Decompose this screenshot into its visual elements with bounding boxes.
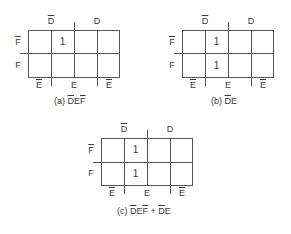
cell-r1-c1: 1 xyxy=(124,169,147,179)
col-divider-2 xyxy=(228,22,229,78)
term: E xyxy=(231,96,237,106)
row-divider xyxy=(93,162,193,163)
caption-prefix: (b) xyxy=(211,96,225,106)
label-e-bar-right: E xyxy=(257,80,269,90)
col-divider-3 xyxy=(251,30,252,86)
label-e-bar-left: E xyxy=(106,188,118,198)
label-d: D xyxy=(164,124,176,134)
label-d-bar: D xyxy=(118,124,130,134)
label-f: F xyxy=(166,60,178,70)
col-divider-3 xyxy=(97,30,98,86)
col-divider-3 xyxy=(170,138,171,194)
cell-r0-c1: 1 xyxy=(51,37,74,47)
label-e-bar-left: E xyxy=(187,80,199,90)
plus-operator: + xyxy=(148,206,158,216)
label-e-bar-left: E xyxy=(33,80,45,90)
label-f: F xyxy=(85,168,97,178)
label-e: E xyxy=(141,188,153,198)
caption-prefix: (a) xyxy=(54,96,68,106)
label-e-bar-right: E xyxy=(103,80,115,90)
label-f-bar: F xyxy=(85,145,97,155)
col-divider-2 xyxy=(74,22,75,78)
row-divider xyxy=(174,53,274,54)
caption-c: (c) DEF + DE xyxy=(117,206,171,216)
caption-a: (a) DEF xyxy=(54,96,86,106)
label-d-bar: D xyxy=(45,16,57,26)
kmap-grid-b: 1 1 D D F F E E E xyxy=(182,30,274,78)
kmap-grid-c: 1 1 D D F F E E E xyxy=(101,138,193,186)
col-divider-2 xyxy=(147,130,148,186)
caption-b: (b) DE xyxy=(211,96,237,106)
term: E xyxy=(165,206,171,216)
label-f: F xyxy=(12,60,24,70)
label-e-bar-right: E xyxy=(176,188,188,198)
label-f-bar: F xyxy=(166,37,178,47)
label-e: E xyxy=(222,80,234,90)
cell-r0-c1: 1 xyxy=(124,145,147,155)
cell-r1-c1: 1 xyxy=(205,61,228,71)
term: F xyxy=(80,96,86,106)
row-divider xyxy=(20,53,120,54)
label-d: D xyxy=(91,16,103,26)
label-d-bar: D xyxy=(199,16,211,26)
label-d: D xyxy=(245,16,257,26)
caption-prefix: (c) xyxy=(117,206,130,216)
kmap-grid-a: 1 D D F F E E E xyxy=(28,30,120,78)
cell-r0-c1: 1 xyxy=(205,37,228,47)
label-f-bar: F xyxy=(12,37,24,47)
label-e: E xyxy=(68,80,80,90)
